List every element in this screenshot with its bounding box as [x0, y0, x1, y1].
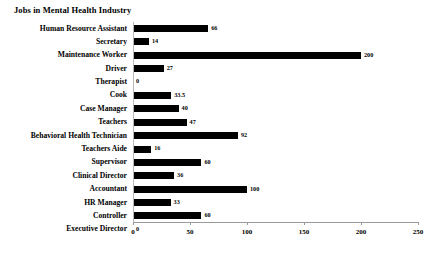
bar-value-label: 14: [152, 37, 158, 44]
category-label: Accountant: [0, 184, 127, 193]
bar-row: Controller60: [0, 209, 431, 222]
bar-value-label: 92: [241, 131, 247, 138]
bar: [133, 52, 361, 59]
category-label: Behavioral Health Technician: [0, 131, 127, 140]
category-label: Teachers: [0, 117, 127, 126]
bar-value-label: 66: [211, 24, 217, 31]
category-label: Controller: [0, 211, 127, 220]
bar-value-label: 60: [204, 158, 210, 165]
bar-row: Therapist0: [0, 76, 431, 89]
bar: [133, 212, 201, 219]
bar-row: Accountant100: [0, 183, 431, 196]
category-label: Human Resource Assistant: [0, 24, 127, 33]
bar-value-label: 40: [182, 104, 188, 111]
bar: [133, 146, 151, 153]
category-label: Supervisor: [0, 157, 127, 166]
bar-value-label: 33: [174, 198, 180, 205]
category-label: Therapist: [0, 77, 127, 86]
bar-row: Teachers Aide16: [0, 143, 431, 156]
bar: [133, 105, 179, 112]
bar: [133, 25, 208, 32]
bar-row: Maintenance Worker200: [0, 49, 431, 62]
bar-value-label: 0: [136, 77, 139, 84]
bar-row: Teachers47: [0, 116, 431, 129]
category-label: Teachers Aide: [0, 144, 127, 153]
x-axis-tick-label: 0: [131, 228, 135, 236]
x-axis-tick: [304, 222, 305, 225]
bar: [133, 65, 164, 72]
category-label: Case Manager: [0, 104, 127, 113]
bar-row: Supervisor60: [0, 156, 431, 169]
x-axis-tick: [361, 222, 362, 225]
x-axis-tick: [247, 222, 248, 225]
x-axis-tick: [190, 222, 191, 225]
bar-value-label: 47: [190, 118, 196, 125]
bar-value-label: 16: [154, 144, 160, 151]
bar: [133, 159, 201, 166]
bar-row: Human Resource Assistant66: [0, 22, 431, 35]
bar: [133, 186, 247, 193]
bar-row: Clinical Director36: [0, 169, 431, 182]
bar-value-label: 36: [177, 171, 183, 178]
bar-value-label: 200: [364, 51, 373, 58]
bar: [133, 199, 171, 206]
bar-row: Secretary14: [0, 35, 431, 48]
bar: [133, 119, 187, 126]
bar-row: Driver27: [0, 62, 431, 75]
category-label: Driver: [0, 64, 127, 73]
bar-row: Cook33.5: [0, 89, 431, 102]
bar: [133, 92, 171, 99]
x-axis-tick-label: 50: [187, 228, 194, 236]
bar-value-label: 33.5: [174, 91, 185, 98]
bar-value-label: 27: [167, 64, 173, 71]
bar-value-label: 100: [250, 185, 259, 192]
x-axis-line: [133, 222, 419, 223]
bar-value-label: 0: [136, 225, 139, 232]
category-label: Clinical Director: [0, 171, 127, 180]
x-axis-tick-label: 100: [242, 228, 253, 236]
category-label: Maintenance Worker: [0, 50, 127, 59]
y-axis-line: [133, 22, 134, 222]
chart-title: Jobs in Mental Health Industry: [14, 5, 131, 15]
category-label: Secretary: [0, 37, 127, 46]
bar-chart: Jobs in Mental Health Industry Human Res…: [0, 0, 431, 260]
x-axis-tick: [133, 222, 134, 225]
bar-row: Behavioral Health Technician92: [0, 129, 431, 142]
bar: [133, 172, 174, 179]
bar-row: Case Manager40: [0, 102, 431, 115]
bar-row: HR Manager33: [0, 196, 431, 209]
bar: [133, 38, 149, 45]
category-label: Cook: [0, 90, 127, 99]
bar: [133, 132, 238, 139]
x-axis-tick-label: 200: [356, 228, 367, 236]
x-axis-tick-label: 250: [413, 228, 424, 236]
x-axis-tick-label: 150: [299, 228, 310, 236]
x-axis-tick: [418, 222, 419, 225]
plot-area: Human Resource Assistant66Secretary14Mai…: [0, 22, 431, 222]
category-label: Executive Director: [0, 224, 127, 233]
bar-value-label: 60: [204, 211, 210, 218]
category-label: HR Manager: [0, 198, 127, 207]
